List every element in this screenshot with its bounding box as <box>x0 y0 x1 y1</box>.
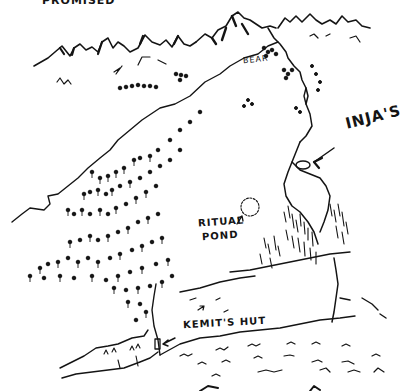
tree-cluster <box>118 46 321 113</box>
lower-cliff <box>60 330 158 378</box>
valley-edge <box>12 42 278 222</box>
map-drawing <box>0 0 401 391</box>
title-truncated: PROMISED <box>42 0 116 6</box>
tree-cluster-main <box>28 110 202 322</box>
water <box>180 342 384 391</box>
sketch-map: PROMISED BEAR INJA'S RITUAL POND KEMIT'S… <box>0 0 401 391</box>
lower-slope <box>152 252 386 355</box>
injas-valley <box>284 142 334 244</box>
mountain-range <box>34 35 196 84</box>
ridge-line <box>268 28 312 142</box>
forest <box>28 46 321 322</box>
mountain-range-right <box>196 12 370 44</box>
